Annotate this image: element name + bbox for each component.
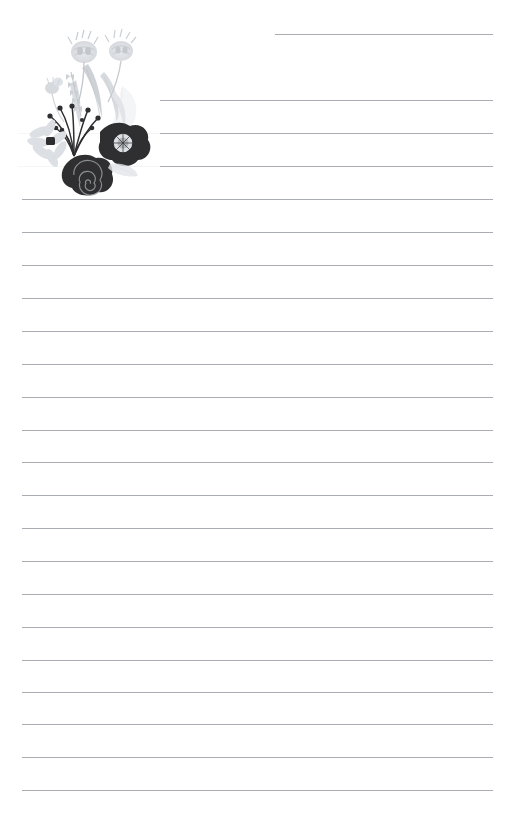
writing-line [160,166,493,167]
writing-line [22,298,493,299]
writing-line [22,692,493,693]
daisy-flower-icon [26,118,69,169]
bud-cluster-icon [45,77,64,122]
writing-line [22,627,493,628]
writing-line [22,528,493,529]
writing-line [22,660,493,661]
notepaper-page [0,0,515,820]
writing-line [275,34,493,35]
leaf-blade-group-icon [70,64,126,130]
berry-stem-spray-icon [50,106,98,156]
writing-line [22,265,493,266]
writing-line [22,462,493,463]
poppy-flower-icon [99,123,151,166]
thistle-bloom-right-icon [105,29,136,102]
writing-line [22,199,493,200]
berry-tips-icon [47,103,100,132]
shadow-leaf-icon [108,86,136,139]
writing-line [22,331,493,332]
writing-line [22,724,493,725]
spiral-rose-icon [62,155,113,196]
writing-line [22,790,493,791]
thistle-bloom-left-icon [68,30,98,104]
writing-line [18,133,160,134]
writing-line [22,397,493,398]
writing-line [18,166,160,167]
writing-line [22,495,493,496]
floral-corner-illustration [18,28,158,196]
writing-line [22,364,493,365]
writing-line [160,133,493,134]
writing-line [22,561,493,562]
writing-line [22,232,493,233]
wheat-sprig-icon [66,72,82,116]
writing-line [22,430,493,431]
writing-line [160,100,493,101]
writing-line [22,757,493,758]
writing-line [22,594,493,595]
